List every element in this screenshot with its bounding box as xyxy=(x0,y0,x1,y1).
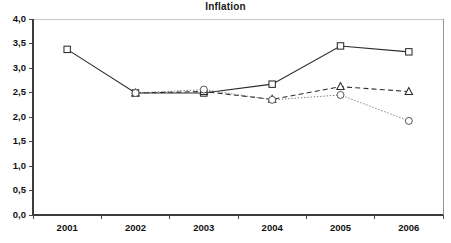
x-tick-label: 2003 xyxy=(193,222,214,233)
data-point-square xyxy=(269,81,275,87)
y-tick-label: 0,0 xyxy=(13,209,26,220)
x-axis-tick-labels: 200120022003200420052006 xyxy=(57,222,420,233)
y-tick-label: 1,5 xyxy=(13,135,27,146)
data-point-square xyxy=(406,49,412,55)
y-tick-label: 3,0 xyxy=(13,62,26,73)
x-tick-label: 2002 xyxy=(125,222,146,233)
data-series-layer xyxy=(64,43,413,125)
x-axis-tick-marks xyxy=(33,215,443,219)
x-tick-label: 2006 xyxy=(398,222,419,233)
data-point-triangle xyxy=(337,83,344,90)
axis-frame xyxy=(33,19,443,215)
x-tick-label: 2005 xyxy=(330,222,352,233)
inflation-chart: Inflation 0,00,51,01,52,02,53,03,54,0 20… xyxy=(0,0,451,243)
y-tick-label: 4,0 xyxy=(13,13,26,24)
y-tick-label: 0,5 xyxy=(13,184,27,195)
x-tick-label: 2004 xyxy=(262,222,284,233)
data-point-circle xyxy=(269,96,276,103)
data-point-circle xyxy=(132,89,139,96)
chart-plot-area: 0,00,51,01,52,02,53,03,54,0 200120022003… xyxy=(0,0,451,243)
data-point-square xyxy=(337,43,343,49)
y-axis-tick-marks xyxy=(29,19,33,215)
data-point-circle xyxy=(337,91,344,98)
y-tick-label: 1,0 xyxy=(13,160,26,171)
data-point-circle xyxy=(405,117,412,124)
series-line xyxy=(67,46,409,93)
data-point-square xyxy=(64,46,70,52)
series-circle-dotted xyxy=(132,86,412,124)
data-point-circle xyxy=(200,86,207,93)
y-axis-tick-labels: 0,00,51,01,52,02,53,03,54,0 xyxy=(13,13,27,220)
y-tick-label: 2,5 xyxy=(13,86,27,97)
y-tick-label: 3,5 xyxy=(13,37,27,48)
x-tick-label: 2001 xyxy=(57,222,79,233)
y-tick-label: 2,0 xyxy=(13,111,26,122)
